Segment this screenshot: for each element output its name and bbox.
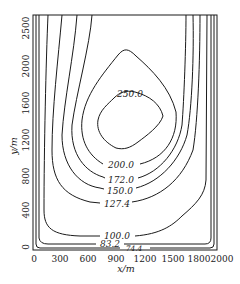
y-tick-2000: 2000 [21, 54, 31, 77]
contour-label-74-4: 74.4 [126, 244, 143, 253]
y-axis-ticks: 0 400 800 1200 1600 2000 2500 [21, 16, 31, 250]
x-tick-2000: 2000 [211, 254, 234, 264]
y-axis-label: y/m [8, 137, 19, 156]
x-axis-label: x/m [117, 263, 135, 274]
x-tick-600: 600 [79, 254, 96, 264]
y-tick-1200: 1200 [21, 128, 31, 151]
contour-lines [36, 15, 214, 248]
contour-labels: 250.0 200.0 172.0 150.0 127.4 100.0 83.2… [100, 89, 143, 253]
x-tick-1500: 1500 [162, 254, 185, 264]
y-tick-400: 400 [21, 201, 31, 218]
contour-chart: 0 300 600 900 1200 1500 1800 2000 x/m 0 … [0, 0, 240, 284]
x-tick-300: 300 [51, 254, 68, 264]
contour-label-172: 172.0 [108, 175, 134, 185]
x-tick-1200: 1200 [134, 254, 157, 264]
contour-label-127-4: 127.4 [104, 199, 130, 209]
contour-label-150: 150.0 [107, 186, 133, 196]
x-tick-0: 0 [31, 254, 37, 264]
x-tick-1800: 1800 [188, 254, 211, 264]
y-tick-2500: 2500 [21, 16, 31, 39]
contour-label-83-2: 83.2 [100, 239, 120, 249]
y-tick-1600: 1600 [21, 91, 31, 114]
y-tick-0: 0 [21, 244, 31, 250]
contour-250 [98, 91, 163, 149]
contour-label-250: 250.0 [116, 89, 143, 99]
y-tick-800: 800 [21, 167, 31, 184]
contour-label-200: 200.0 [107, 160, 134, 170]
